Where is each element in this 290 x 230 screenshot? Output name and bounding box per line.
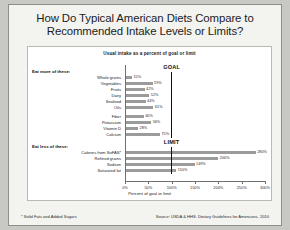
- x-axis-tick: [242, 181, 243, 184]
- category-label: Seafood: [55, 99, 121, 104]
- x-axis-tick-label: 150%: [190, 185, 200, 190]
- category-label: Sodium: [55, 162, 121, 167]
- bar-value-label: 28%: [140, 126, 148, 130]
- bar: [125, 133, 160, 136]
- x-axis-tick-label: 100%: [167, 185, 177, 190]
- y-axis-line: [125, 65, 126, 181]
- category-label: Potassium: [55, 120, 121, 125]
- category-label: Vegetables: [55, 81, 121, 86]
- x-axis-tick: [125, 181, 126, 184]
- bar: [125, 106, 153, 109]
- bar-value-label: 52%: [151, 93, 159, 97]
- category-label: Whole grains: [55, 75, 121, 80]
- bar-value-label: 44%: [147, 99, 155, 103]
- x-axis-tick: [148, 181, 149, 184]
- bar: [125, 82, 153, 85]
- page-title: How Do Typical American Diets Compare to…: [9, 5, 281, 38]
- bar-value-label: 59%: [154, 81, 162, 85]
- reference-line-goal: [171, 72, 173, 138]
- bar-value-label: 56%: [153, 120, 161, 124]
- group-heading-1: Eat more of these:: [32, 69, 70, 74]
- x-axis-title: Percent of goal or limit: [28, 191, 271, 196]
- x-axis-tick-label: 50%: [144, 185, 152, 190]
- category-label: Saturated fat: [55, 168, 121, 173]
- chart-container: Usual intake as a percent of goal or lim…: [27, 46, 272, 201]
- bar: [125, 169, 176, 172]
- x-axis-tick: [172, 181, 173, 184]
- x-axis-tick: [265, 181, 266, 184]
- bar-value-label: 75%: [162, 132, 170, 136]
- chart-plot-area: Eat more of these:Whole grains15%Vegetab…: [28, 47, 271, 200]
- page-title-line-1: How Do Typical American Diets Compare to: [19, 12, 271, 25]
- category-label: Fiber: [55, 114, 121, 119]
- bar: [125, 115, 144, 118]
- footnote: * Solid Fats and Added Sugars: [21, 214, 77, 219]
- bar: [125, 127, 138, 130]
- x-axis-tick-label: 250%: [237, 185, 247, 190]
- x-axis-tick-label: 0%: [122, 185, 128, 190]
- reference-label-limit: LIMIT: [164, 139, 180, 145]
- category-label: Refined grains: [55, 156, 121, 161]
- bar: [125, 151, 256, 154]
- bar: [125, 76, 132, 79]
- bar-value-label: 40%: [145, 114, 153, 118]
- x-axis-tick: [218, 181, 219, 184]
- category-label: Calcium: [55, 132, 121, 137]
- category-label: Calories from SoFAS*: [55, 150, 121, 155]
- category-label: Fruits: [55, 87, 121, 92]
- slide-canvas: How Do Typical American Diets Compare to…: [8, 4, 282, 226]
- bar: [125, 163, 195, 166]
- reference-label-goal: GOAL: [163, 64, 180, 70]
- x-axis-tick: [195, 181, 196, 184]
- bar-value-label: 61%: [155, 105, 163, 109]
- group-heading-2: Eat less of these:: [32, 144, 68, 149]
- bar: [125, 88, 145, 91]
- x-axis-tick-label: 200%: [213, 185, 223, 190]
- source-citation: Source: USDA & HHS. Dietary Guidelines f…: [156, 214, 269, 219]
- bar-value-label: 15%: [134, 75, 142, 79]
- category-label: Oils: [55, 105, 121, 110]
- category-label: Vitamin D: [55, 126, 121, 131]
- bar-value-label: 110%: [178, 168, 187, 172]
- x-axis-tick-label: 300%: [260, 185, 270, 190]
- page-title-line-2: Recommended Intake Levels or Limits?: [19, 25, 271, 38]
- bar-value-label: 200%: [220, 156, 230, 160]
- bar: [125, 121, 151, 124]
- category-label: Dairy: [55, 93, 121, 98]
- bar-value-label: 149%: [196, 162, 206, 166]
- bar-value-label: 280%: [257, 150, 267, 154]
- bar: [125, 94, 149, 97]
- bar-value-label: 42%: [146, 87, 154, 91]
- reference-line-limit: [171, 147, 173, 174]
- bar: [125, 100, 146, 103]
